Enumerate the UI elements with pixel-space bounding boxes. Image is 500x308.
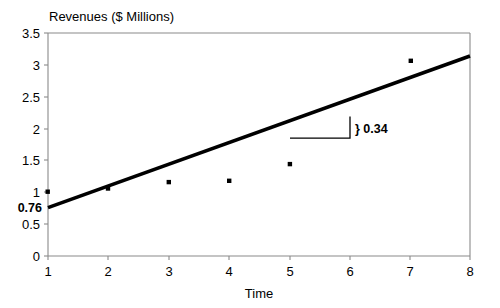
x-tick-label-1: 1	[44, 264, 51, 279]
x-tick-label-4: 4	[225, 264, 232, 279]
data-point	[167, 180, 171, 184]
plot-frame	[48, 33, 470, 256]
y-tick-label-2: 2	[33, 122, 40, 137]
slope-triangle-legs	[290, 116, 350, 138]
x-axis: 1 2 3 4 5 6 7 8	[44, 256, 473, 279]
y-tick-label-3.5: 3.5	[22, 26, 40, 41]
y-tick-label-2.5: 2.5	[22, 90, 40, 105]
slope-annotation: } 0.34	[290, 116, 388, 138]
y-tick-label-1: 1	[33, 185, 40, 200]
data-point	[409, 59, 413, 63]
trend-line-group	[48, 56, 470, 208]
y-axis: 3.5 3 2.5 2 1.5 1 0.5 0	[22, 26, 48, 264]
revenues-scatter-chart: Revenues ($ Millions) 3.5 3 2.5 2 1.5 1 …	[0, 0, 500, 308]
data-point	[227, 179, 231, 183]
x-axis-label: Time	[245, 286, 273, 301]
trend-line	[48, 56, 470, 208]
x-tick-label-5: 5	[286, 264, 293, 279]
data-point	[288, 162, 292, 166]
intercept-annotation-label: 0.76	[18, 201, 42, 215]
data-point	[106, 186, 110, 190]
chart-title: Revenues ($ Millions)	[49, 9, 174, 24]
chart-canvas: Revenues ($ Millions) 3.5 3 2.5 2 1.5 1 …	[0, 0, 500, 308]
x-tick-label-3: 3	[165, 264, 172, 279]
x-tick-label-8: 8	[466, 264, 473, 279]
y-tick-label-3: 3	[33, 58, 40, 73]
y-tick-label-1.5: 1.5	[22, 153, 40, 168]
x-tick-label-6: 6	[346, 264, 353, 279]
y-tick-label-0: 0	[33, 249, 40, 264]
x-tick-label-2: 2	[104, 264, 111, 279]
y-tick-label-0.5: 0.5	[22, 217, 40, 232]
x-tick-label-7: 7	[406, 264, 413, 279]
slope-annotation-label: } 0.34	[355, 122, 388, 136]
data-point	[46, 190, 50, 194]
